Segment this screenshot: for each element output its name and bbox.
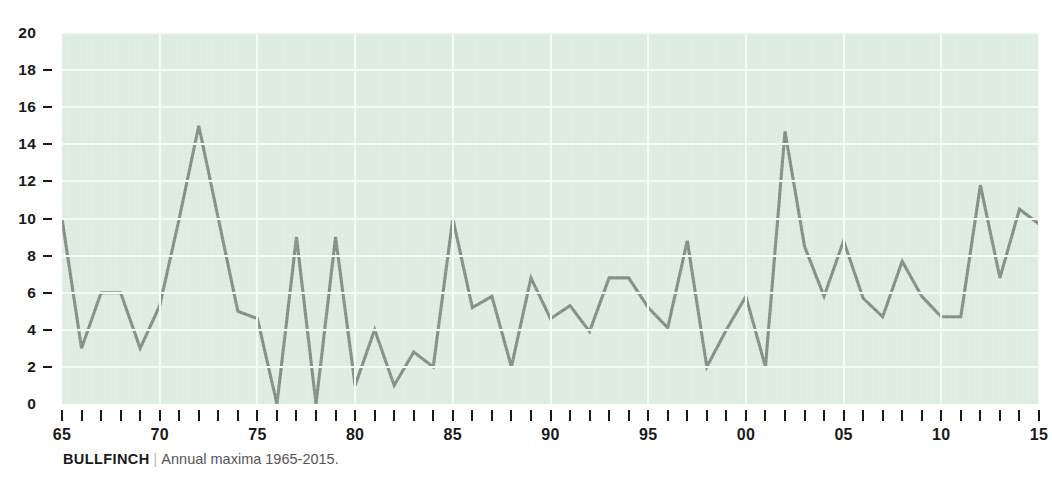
y-tick-label: 0 — [0, 395, 36, 413]
y-tick-mark — [43, 69, 52, 71]
x-tick-mark — [237, 410, 239, 421]
x-tick-mark — [354, 410, 356, 421]
x-tick-label: 85 — [433, 426, 473, 444]
x-tick-mark — [647, 410, 649, 421]
x-tick-mark — [432, 410, 434, 421]
x-tick-mark — [374, 410, 376, 421]
x-tick-mark — [628, 410, 630, 421]
y-tick-label: 18 — [0, 61, 36, 79]
y-tick-label: 2 — [0, 358, 36, 376]
plot-area — [62, 33, 1039, 404]
x-tick-mark — [413, 410, 415, 421]
caption: BULLFINCH|Annual maxima 1965-2015. — [63, 451, 339, 467]
x-tick-mark — [198, 410, 200, 421]
chart-root: 02468101214161820 6570758085909500051015… — [0, 0, 1052, 488]
x-tick-mark — [393, 410, 395, 421]
x-tick-label: 75 — [237, 426, 277, 444]
x-tick-mark — [295, 410, 297, 421]
x-tick-mark — [335, 410, 337, 421]
x-tick-mark — [706, 410, 708, 421]
gridline-vertical — [354, 33, 356, 404]
gridline-vertical — [940, 33, 942, 404]
caption-source: BULLFINCH — [63, 451, 150, 467]
gridline-vertical — [843, 33, 845, 404]
x-tick-mark — [862, 410, 864, 421]
y-tick-mark — [43, 255, 52, 257]
x-tick-label: 10 — [921, 426, 961, 444]
x-tick-mark — [608, 410, 610, 421]
gridline-vertical — [1038, 33, 1039, 404]
gridline-vertical — [452, 33, 454, 404]
x-tick-mark — [530, 410, 532, 421]
y-tick-label: 16 — [0, 98, 36, 116]
x-tick-mark — [745, 410, 747, 421]
x-tick-mark — [159, 410, 161, 421]
caption-description: Annual maxima 1965-2015. — [161, 451, 338, 467]
x-tick-label: 80 — [335, 426, 375, 444]
x-tick-mark — [276, 410, 278, 421]
gridline-vertical — [647, 33, 649, 404]
x-tick-mark — [725, 410, 727, 421]
x-tick-label: 15 — [1019, 426, 1052, 444]
x-tick-mark — [940, 410, 942, 421]
x-tick-label: 65 — [42, 426, 82, 444]
x-tick-mark — [882, 410, 884, 421]
x-tick-mark — [979, 410, 981, 421]
x-tick-mark — [256, 410, 258, 421]
x-tick-mark — [686, 410, 688, 421]
x-tick-mark — [452, 410, 454, 421]
x-tick-mark — [804, 410, 806, 421]
x-tick-mark — [843, 410, 845, 421]
gridline-vertical — [159, 33, 161, 404]
x-tick-mark — [471, 410, 473, 421]
y-tick-label: 14 — [0, 135, 36, 153]
x-tick-mark — [178, 410, 180, 421]
gridline-vertical — [550, 33, 552, 404]
x-tick-mark — [764, 410, 766, 421]
x-tick-mark — [550, 410, 552, 421]
x-tick-label: 90 — [531, 426, 571, 444]
y-tick-label: 20 — [0, 24, 36, 42]
x-tick-label: 95 — [628, 426, 668, 444]
x-tick-mark — [81, 410, 83, 421]
x-tick-mark — [1018, 410, 1020, 421]
x-tick-mark — [217, 410, 219, 421]
y-tick-label: 8 — [0, 247, 36, 265]
x-tick-mark — [999, 410, 1001, 421]
y-tick-label: 10 — [0, 210, 36, 228]
y-tick-mark — [43, 366, 52, 368]
x-tick-mark — [100, 410, 102, 421]
x-tick-mark — [921, 410, 923, 421]
x-tick-mark — [667, 410, 669, 421]
gridline-vertical — [256, 33, 258, 404]
y-tick-label: 12 — [0, 172, 36, 190]
x-tick-mark — [510, 410, 512, 421]
x-tick-mark — [491, 410, 493, 421]
y-tick-mark — [43, 292, 52, 294]
x-tick-mark — [120, 410, 122, 421]
y-tick-mark — [43, 143, 52, 145]
x-tick-mark — [823, 410, 825, 421]
x-tick-mark — [1038, 410, 1040, 421]
x-tick-mark — [589, 410, 591, 421]
y-tick-label: 6 — [0, 284, 36, 302]
x-tick-label: 05 — [824, 426, 864, 444]
x-tick-mark — [569, 410, 571, 421]
x-tick-mark — [315, 410, 317, 421]
y-tick-mark — [43, 329, 52, 331]
x-tick-mark — [784, 410, 786, 421]
y-tick-mark — [43, 180, 52, 182]
x-tick-label: 70 — [140, 426, 180, 444]
caption-separator: | — [150, 451, 162, 467]
y-tick-label: 4 — [0, 321, 36, 339]
x-tick-label: 00 — [726, 426, 766, 444]
y-tick-mark — [43, 106, 52, 108]
x-tick-mark — [960, 410, 962, 421]
y-tick-mark — [43, 218, 52, 220]
gridline-vertical — [745, 33, 747, 404]
x-tick-mark — [139, 410, 141, 421]
x-tick-mark — [901, 410, 903, 421]
x-tick-mark — [61, 410, 63, 421]
